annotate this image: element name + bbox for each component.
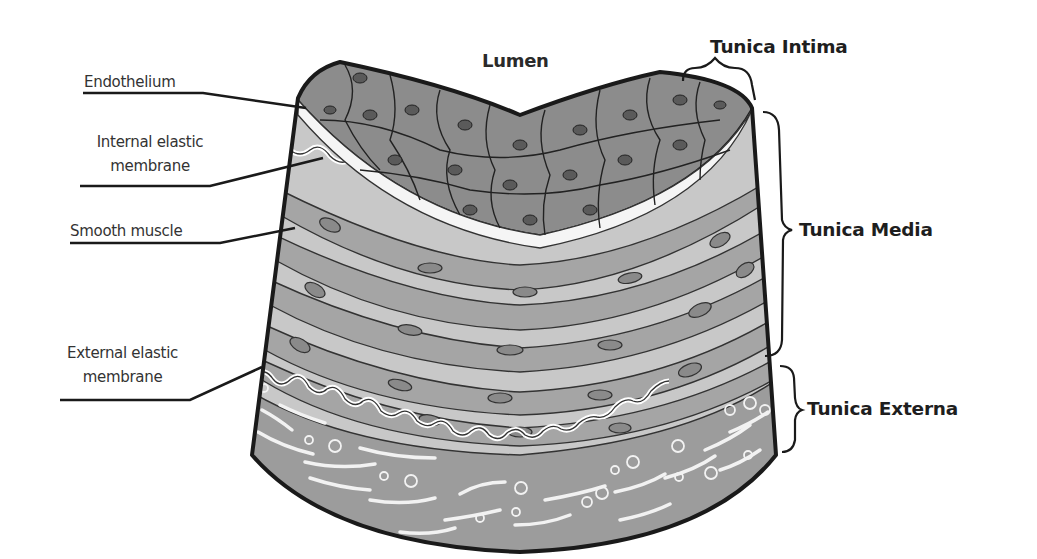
endothelium-label: Endothelium	[84, 74, 175, 91]
external-elastic-membrane-label: External elastic membrane	[40, 345, 205, 386]
vessel-section	[240, 60, 790, 552]
tunica-externa-label: Tunica Externa	[807, 398, 958, 419]
internal-elastic-membrane-line2: membrane	[75, 158, 225, 175]
external-elastic-membrane-line2: membrane	[40, 369, 205, 386]
internal-elastic-membrane-line1: Internal elastic	[75, 134, 225, 151]
tunica-media-label: Tunica Media	[799, 219, 933, 240]
tunica-intima-label: Tunica Intima	[710, 36, 848, 57]
tunica-externa-brace	[780, 366, 802, 452]
external-elastic-membrane-line1: External elastic	[40, 345, 205, 362]
lumen-label: Lumen	[482, 52, 549, 69]
endothelium-leader	[83, 93, 306, 108]
smooth-muscle-label: Smooth muscle	[70, 223, 182, 240]
internal-elastic-membrane-label: Internal elastic membrane	[75, 134, 225, 175]
